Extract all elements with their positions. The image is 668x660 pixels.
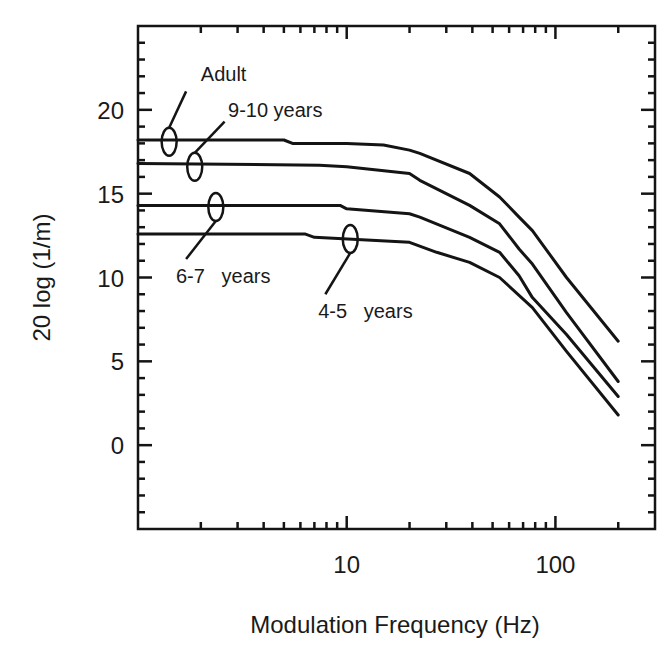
curve-4-5-years [138, 234, 618, 415]
y-tick-label: 20 [97, 97, 124, 124]
x-tick-label: 10 [333, 551, 360, 578]
annotation-label: 4-5 years [318, 300, 412, 322]
annotation-marker-ellipse [162, 128, 177, 156]
annotation-label: Adult [201, 63, 247, 85]
annotation-marker-ellipse [208, 193, 223, 221]
annotation-leader-line [169, 91, 186, 127]
annotation-marker-ellipse [187, 153, 202, 181]
y-tick-label: 15 [97, 181, 124, 208]
y-axis-title: 20 log (1/m) [28, 213, 55, 341]
annotation-leader-line [325, 253, 350, 294]
annotations: Adult9-10 years6-7 years4-5 years [162, 63, 413, 321]
annotation-label: 6-7 years [176, 265, 270, 287]
y-tick-label: 10 [97, 265, 124, 292]
x-axis-title: Modulation Frequency (Hz) [250, 611, 539, 638]
y-tick-label: 0 [111, 432, 124, 459]
annotation-label: 9-10 years [228, 99, 323, 121]
y-tick-label: 5 [111, 348, 124, 375]
chart: Adult9-10 years6-7 years4-5 years 101000… [0, 0, 668, 660]
annotation-leader-line [195, 122, 225, 153]
annotation-leader-line [186, 221, 216, 259]
x-tick-label: 100 [535, 551, 575, 578]
tick-labels: 1010005101520 [97, 97, 575, 578]
